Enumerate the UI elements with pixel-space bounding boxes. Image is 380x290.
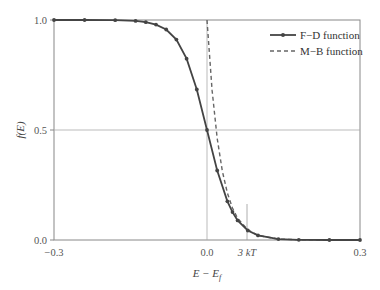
fd-data-point — [328, 238, 332, 242]
fermi-dirac-chart: 1.0 0.5 0.0 −0.3 0.0 3 kT 0.3 f(E) E − E… — [0, 0, 380, 290]
x-tick-label-neg: −0.3 — [44, 247, 63, 258]
fd-data-point — [205, 128, 209, 132]
y-tick-label-05: 0.5 — [34, 125, 47, 136]
fd-data-point — [175, 38, 179, 42]
fd-data-point — [226, 199, 230, 203]
x-tick-label-pos: 0.3 — [353, 247, 366, 258]
x-tick-label-0: 0.0 — [200, 247, 213, 258]
y-tick-label-0: 0.0 — [34, 235, 47, 246]
fd-data-point — [144, 20, 148, 24]
fd-data-point — [297, 238, 301, 242]
fd-data-point — [52, 18, 56, 22]
fd-data-point — [358, 238, 362, 242]
fd-data-point — [277, 237, 281, 241]
legend-mb-label: M−B function — [300, 45, 363, 57]
fd-data-point — [231, 210, 235, 214]
fd-data-point — [195, 88, 199, 92]
legend-fd-marker — [281, 33, 285, 37]
fd-data-point — [113, 18, 117, 22]
fd-data-point — [236, 219, 240, 223]
legend: F−D function M−B function — [270, 29, 363, 57]
fd-data-point — [246, 229, 250, 233]
x-axis-title: E − Ef — [192, 267, 223, 282]
fd-data-point — [185, 57, 189, 61]
fd-data-point — [134, 19, 138, 23]
fd-data-point — [83, 18, 87, 22]
legend-fd-label: F−D function — [300, 29, 360, 41]
fd-data-point — [215, 169, 219, 173]
fd-data-point — [256, 234, 260, 238]
x-tick-label-3kt: 3 kT — [237, 247, 258, 258]
fd-data-point — [164, 28, 168, 32]
fd-data-point — [154, 23, 158, 27]
y-tick-label-1: 1.0 — [34, 15, 47, 26]
y-axis-title: f(E) — [14, 121, 27, 138]
